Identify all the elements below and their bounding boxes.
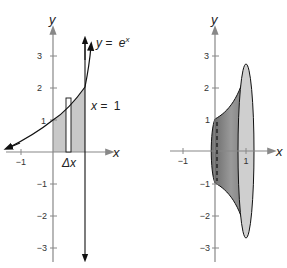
curve-exp-left-arrow: [8, 143, 20, 148]
y-tick-neg3: −3: [37, 243, 47, 253]
y-tick-2: 2: [37, 83, 42, 93]
y-tick-neg2: −2: [37, 211, 47, 221]
x-tick-neg1: −1: [178, 156, 188, 166]
y-tick-neg1: −1: [37, 179, 47, 189]
y-tick-1: 1: [41, 116, 46, 126]
right-graph: 3 2 1 −1 −2 −3 −1 1 y x: [170, 12, 283, 262]
line-label: x = 1: [90, 99, 121, 113]
diagram-canvas: 3 2 1 −1 −2 −3 −1 y x y = ex x = 1 Δx: [0, 0, 287, 268]
x-tick-neg1: −1: [16, 157, 26, 167]
y-tick-neg1: −1: [200, 179, 210, 189]
y-tick-3: 3: [37, 51, 42, 61]
delta-x-label: Δx: [61, 156, 77, 170]
y-axis-label: y: [210, 12, 219, 27]
y-tick-1: 1: [205, 115, 210, 125]
x-axis-label: x: [112, 145, 120, 160]
curve-label: y = ex: [95, 35, 130, 50]
y-tick-neg3: −3: [200, 243, 210, 253]
y-axis-label: y: [48, 12, 57, 27]
x-axis-label: x: [275, 144, 283, 159]
y-tick-2: 2: [204, 83, 209, 93]
y-tick-3: 3: [204, 51, 209, 61]
x-tick-1: 1: [243, 156, 248, 166]
left-graph: 3 2 1 −1 −2 −3 −1 y x y = ex x = 1 Δx: [6, 12, 130, 262]
y-tick-neg2: −2: [200, 211, 210, 221]
